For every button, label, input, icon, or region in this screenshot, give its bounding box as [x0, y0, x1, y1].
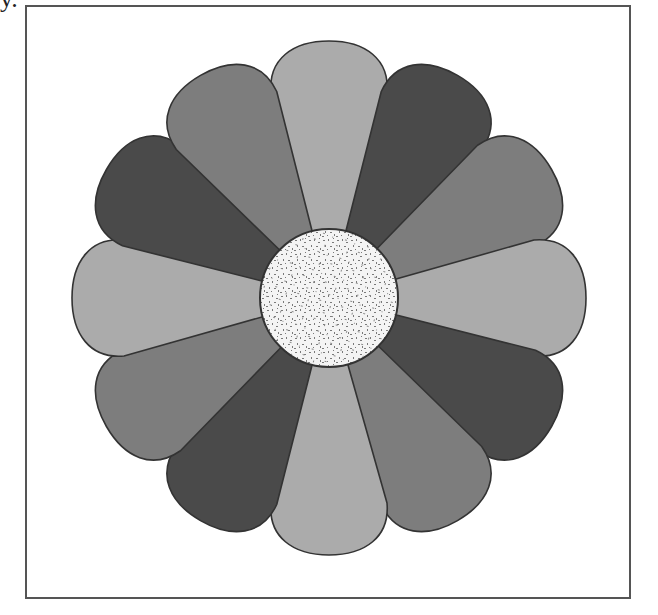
flower-figure — [0, 0, 658, 615]
center-disc — [260, 229, 398, 367]
